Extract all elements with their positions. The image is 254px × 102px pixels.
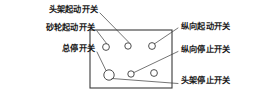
label-head-stop: 头架停止开关 <box>181 76 230 84</box>
label-head-start: 头架起动开关 <box>49 5 98 13</box>
figure-canvas: 头架起动开关 砂轮起动开关 总停开关 纵向起动开关 纵向停止开关 头架停止开关 <box>0 0 254 102</box>
leader-head-stop-line <box>112 79 178 84</box>
switch-group <box>103 43 158 81</box>
leader-master-stop-line <box>97 52 106 71</box>
label-longitudinal-start: 纵向起动开关 <box>181 22 230 30</box>
label-wheel-start: 砂轮起动开关 <box>46 23 95 31</box>
switch-master-stop[interactable] <box>104 70 114 80</box>
switch-longitudinal-stop[interactable] <box>128 71 134 77</box>
switch-head-stop[interactable] <box>151 70 158 77</box>
switch-longitudinal-start[interactable] <box>149 43 156 50</box>
switch-head-start[interactable] <box>103 44 110 51</box>
switch-wheel-start[interactable] <box>125 43 131 49</box>
leader-head-start-line <box>100 13 129 43</box>
leader-wheel-start-line <box>97 31 107 43</box>
leader-longitudinal-stop-line <box>134 52 178 73</box>
label-longitudinal-stop: 纵向停止开关 <box>181 45 230 53</box>
label-master-stop: 总停开关 <box>62 44 95 52</box>
control-panel-body[interactable] <box>90 30 172 88</box>
